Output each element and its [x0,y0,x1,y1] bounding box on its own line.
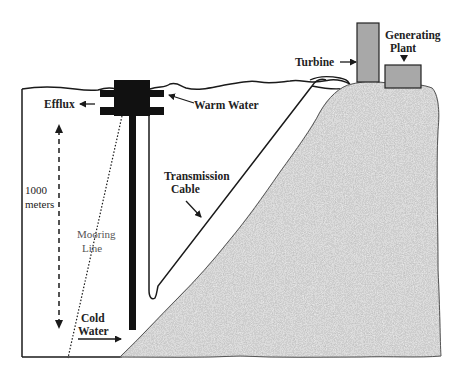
depth-arrow-down-icon [55,320,63,329]
generating-plant-building [385,65,421,88]
warm-water-arrow-icon [169,95,194,103]
sea-surface-line [22,80,350,91]
otec-platform [100,80,164,330]
generating-plant-label-2: Plant [390,42,416,54]
turbine-label: Turbine [295,56,334,68]
transmission-cable-label-1: Transmission [164,170,230,182]
depth-arrow-up-icon [55,124,63,133]
depth-unit-label: meters [25,198,54,210]
warm-water-label: Warm Water [194,99,259,111]
cold-water-label-1: Cold [81,312,105,324]
island-rock [120,81,441,357]
platform-upper-flange [100,90,164,97]
transmission-cable-label-2: Cable [171,183,200,195]
turbine-building [357,23,379,82]
generating-plant-arrow-icon [400,55,408,62]
generating-plant-label-1: Generating [385,29,441,42]
depth-value-label: 1000 [25,184,48,196]
efflux-label: Efflux [44,98,75,110]
platform-lower-flange [100,107,164,115]
transmission-arrow-icon [186,201,201,217]
cold-water-pipe [129,116,136,330]
depth-indicator [55,124,63,329]
otec-diagram: Efflux Warm Water 1000 meters Mooring Li… [0,0,464,380]
mooring-line-label-2: Line [82,242,102,254]
cold-water-label-2: Water [78,325,109,337]
mooring-line-label-1: Mooring [77,228,116,240]
